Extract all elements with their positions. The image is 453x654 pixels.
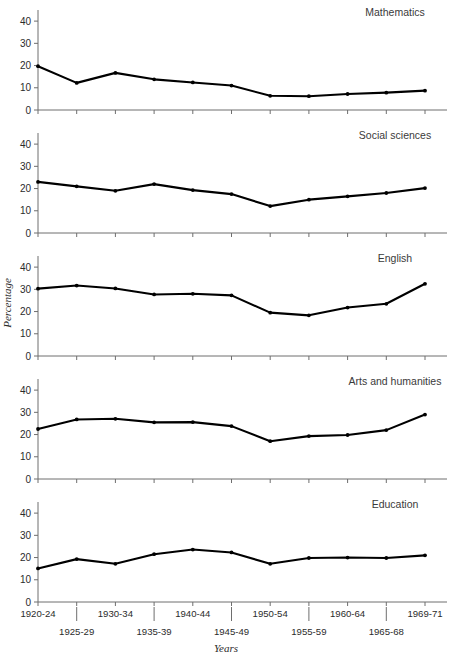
data-point [191, 188, 195, 192]
data-point [346, 433, 350, 437]
series-line-english [38, 284, 425, 316]
x-tick-label: 1950-54 [253, 608, 289, 619]
data-point [191, 420, 195, 424]
x-tick-label: 1960-64 [330, 608, 366, 619]
data-point [230, 84, 234, 88]
panel-social-sciences: 010203040Social sciences [20, 129, 447, 239]
data-point [75, 557, 79, 561]
y-axis-title: Percentage [1, 278, 13, 329]
data-point [346, 194, 350, 198]
y-tick-label: 20 [20, 552, 32, 563]
data-point [384, 91, 388, 95]
data-point [423, 89, 427, 93]
y-tick-label: 30 [20, 407, 32, 418]
data-point [75, 418, 79, 422]
data-point [36, 64, 40, 68]
data-point [36, 427, 40, 431]
panel-axes [38, 10, 447, 110]
data-point [307, 556, 311, 560]
data-point [75, 81, 79, 85]
x-axis-group: 1920-241925-291930-341935-391940-441945-… [20, 607, 442, 637]
x-tick-label: 1969-71 [407, 608, 442, 619]
y-tick-label: 20 [20, 429, 32, 440]
data-point [114, 189, 118, 193]
y-tick-label: 10 [20, 328, 32, 339]
y-tick-label: 30 [20, 38, 32, 49]
data-point [307, 94, 311, 98]
data-point [346, 306, 350, 310]
data-point [384, 191, 388, 195]
y-tick-label: 30 [20, 161, 32, 172]
series-line-mathematics [38, 66, 425, 96]
y-tick-label: 20 [20, 306, 32, 317]
data-point [268, 562, 272, 566]
y-tick-label: 10 [20, 574, 32, 585]
panel-axes [38, 502, 447, 602]
data-point [36, 180, 40, 184]
data-point [268, 94, 272, 98]
panel-group: 010203040Mathematics010203040Social scie… [20, 6, 447, 608]
data-point [268, 439, 272, 443]
panel-axes [38, 133, 447, 233]
data-point [36, 567, 40, 571]
y-tick-label: 0 [25, 597, 31, 608]
data-point [307, 313, 311, 317]
x-tick-label: 1940-44 [175, 608, 211, 619]
panel-title: Mathematics [365, 6, 425, 18]
panel-education: 010203040Education [20, 498, 447, 608]
data-point [152, 552, 156, 556]
y-tick-label: 40 [20, 508, 32, 519]
panel-title: Education [372, 498, 419, 510]
data-point [114, 71, 118, 75]
data-point [230, 551, 234, 555]
data-point [423, 553, 427, 557]
panel-arts-and-humanities: 010203040Arts and humanities [20, 375, 447, 485]
x-tick-label: 1920-24 [20, 608, 56, 619]
x-tick-label: 1930-34 [98, 608, 134, 619]
y-tick-label: 40 [20, 16, 32, 27]
data-point [230, 293, 234, 297]
chart-figure: Percentage Years 010203040Mathematics010… [0, 0, 453, 654]
data-point [191, 292, 195, 296]
data-point [191, 548, 195, 552]
y-tick-label: 20 [20, 60, 32, 71]
y-tick-label: 30 [20, 284, 32, 295]
data-point [346, 556, 350, 560]
data-point [268, 311, 272, 315]
data-point [423, 282, 427, 286]
data-point [423, 186, 427, 190]
data-point [307, 198, 311, 202]
data-point [384, 556, 388, 560]
panel-mathematics: 010203040Mathematics [20, 6, 447, 116]
data-point [152, 293, 156, 297]
y-tick-label: 40 [20, 262, 32, 273]
x-tick-label: 1945-49 [214, 626, 249, 637]
data-point [191, 81, 195, 85]
data-point [36, 287, 40, 291]
data-point [152, 420, 156, 424]
data-point [384, 428, 388, 432]
data-point [423, 413, 427, 417]
data-point [268, 204, 272, 208]
data-point [230, 424, 234, 428]
y-tick-label: 40 [20, 139, 32, 150]
chart-svg: Percentage Years 010203040Mathematics010… [0, 0, 453, 654]
y-tick-label: 0 [25, 474, 31, 485]
data-point [114, 417, 118, 421]
data-point [75, 284, 79, 288]
x-tick-label: 1925-29 [59, 626, 94, 637]
panel-title: Arts and humanities [349, 375, 442, 387]
y-tick-label: 0 [25, 351, 31, 362]
y-tick-label: 10 [20, 451, 32, 462]
x-axis-title: Years [214, 642, 238, 654]
data-point [152, 182, 156, 186]
data-point [114, 562, 118, 566]
y-tick-label: 10 [20, 205, 32, 216]
panel-title: Social sciences [359, 129, 431, 141]
x-tick-label: 1955-59 [291, 626, 326, 637]
y-tick-label: 40 [20, 385, 32, 396]
data-point [75, 184, 79, 188]
panel-english: 010203040English [20, 252, 447, 362]
y-tick-label: 0 [25, 105, 31, 116]
data-point [114, 287, 118, 291]
